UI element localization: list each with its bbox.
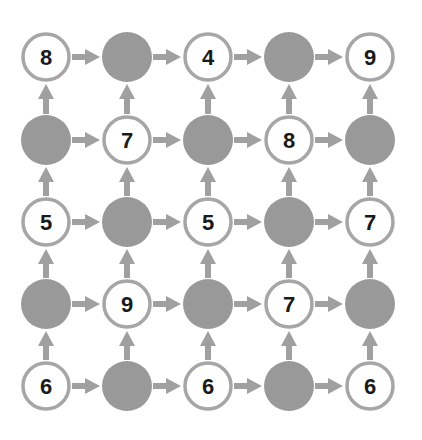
node-value: 5 [202,210,214,235]
arrow-icon [38,84,54,114]
node-value: 7 [121,128,133,153]
arrow-icon [38,249,54,278]
node-value: 9 [364,45,376,70]
node-value: 9 [121,292,133,317]
node-value: 7 [283,292,295,317]
node-value: 7 [364,210,376,235]
arrow-icon [72,132,100,148]
node-value: 4 [202,45,215,70]
number-node: 9 [347,34,393,80]
arrow-icon [315,296,343,312]
grid-diagram: 8497855797666 [0,0,422,440]
arrow-icon [281,167,297,196]
arrow-icon [234,49,262,65]
arrow-icon [362,331,378,360]
arrow-icon [281,331,297,360]
arrow-icon [72,296,100,312]
arrow-icon [362,167,378,196]
filled-node [264,32,314,82]
arrow-icon [234,214,262,230]
arrow-icon [315,132,343,148]
arrow-icon [315,49,343,65]
node-value: 6 [202,374,214,399]
number-node: 5 [23,199,69,245]
number-node: 6 [23,363,69,409]
filled-node [21,115,71,165]
arrow-icon [153,378,181,394]
filled-node [21,279,71,329]
filled-node [183,279,233,329]
arrow-icon [200,84,216,114]
arrow-icon [281,84,297,114]
node-value: 8 [40,45,52,70]
arrow-icon [153,132,181,148]
number-node: 9 [104,281,150,327]
filled-node [183,115,233,165]
node-value: 6 [364,374,376,399]
number-node: 7 [104,117,150,163]
arrow-icon [234,132,262,148]
number-node: 8 [23,34,69,80]
arrow-icon [72,378,100,394]
filled-node [345,115,395,165]
arrow-icon [315,378,343,394]
arrow-icon [200,167,216,196]
arrow-icon [38,167,54,196]
number-node: 6 [185,363,231,409]
number-node: 8 [266,117,312,163]
number-node: 6 [347,363,393,409]
arrow-icon [72,214,100,230]
filled-node [102,361,152,411]
filled-node [102,197,152,247]
arrow-icon [119,249,135,278]
filled-node [264,197,314,247]
filled-node [345,279,395,329]
arrow-icon [119,167,135,196]
arrow-icon [362,249,378,278]
number-node: 4 [185,34,231,80]
arrow-icon [234,296,262,312]
arrow-icon [38,331,54,360]
arrow-icon [200,249,216,278]
node-value: 6 [40,374,52,399]
arrow-icon [119,84,135,114]
arrow-icon [153,214,181,230]
arrow-icon [72,49,100,65]
arrow-icon [281,249,297,278]
arrow-icon [234,378,262,394]
arrow-icon [315,214,343,230]
arrow-icon [153,49,181,65]
number-node: 5 [185,199,231,245]
arrow-icon [200,331,216,360]
arrow-icon [119,331,135,360]
arrow-icon [153,296,181,312]
node-value: 5 [40,210,52,235]
arrow-icon [362,84,378,114]
filled-node [102,32,152,82]
filled-node [264,361,314,411]
number-node: 7 [266,281,312,327]
node-value: 8 [283,128,295,153]
number-node: 7 [347,199,393,245]
